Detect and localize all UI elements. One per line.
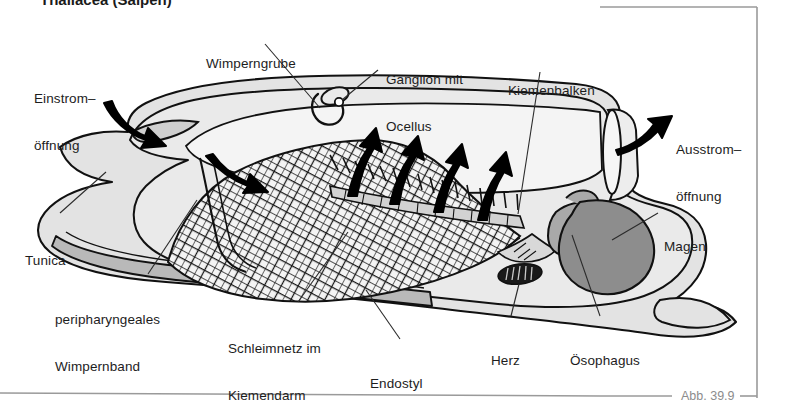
label-wimperngrube-line1: Wimperngrube <box>206 56 296 72</box>
label-schleimnetz-im-kiemendarm: Schleimnetz im Kiemendarm <box>228 310 321 413</box>
label-magen-line1: Magen <box>664 239 706 255</box>
label-wimperngrube: Wimperngrube <box>206 25 296 103</box>
label-oesophagus-line1: Ösophagus <box>570 353 640 369</box>
label-ganglion-mit-ocellus: Ganglion mit Ocellus <box>386 41 463 165</box>
label-einstromoeffnung-line2: öffnung <box>34 138 96 154</box>
label-peripharyngeales-wimpernband: peripharyngeales Wimpernband <box>55 281 160 405</box>
label-wimpernband-line1: peripharyngeales <box>55 312 160 328</box>
figure-container: Thaliacea (Salpen) <box>0 0 787 413</box>
label-herz: Herz <box>491 322 520 400</box>
label-einstromoeffnung-line1: Einstrom– <box>34 91 96 107</box>
label-tunica-line1: Tunica <box>25 253 66 269</box>
ocellus-icon <box>335 98 343 106</box>
label-ganglion-line2: Ocellus <box>386 119 463 135</box>
figure-caption: Abb. 39.9 <box>681 389 735 403</box>
label-endostyl-line1: Endostyl <box>370 376 423 392</box>
label-herz-line1: Herz <box>491 353 520 369</box>
label-ausstromoeffnung-line1: Ausstrom– <box>676 142 741 158</box>
label-ganglion-line1: Ganglion mit <box>386 72 463 88</box>
tunica-posterior-lobe <box>654 298 730 328</box>
label-endostyl: Endostyl <box>370 345 423 413</box>
label-einstromoeffnung: Einstrom– öffnung <box>34 60 96 184</box>
label-wimpernband-line2: Wimpernband <box>55 359 160 375</box>
label-magen: Magen <box>664 208 706 286</box>
label-kiemenbalken-line1: Kiemenbalken <box>508 83 595 99</box>
label-kiemenbalken: Kiemenbalken <box>508 52 595 130</box>
label-ausstromoeffnung-line2: öffnung <box>676 189 741 205</box>
label-oesophagus: Ösophagus <box>570 322 640 400</box>
label-schleimnetz-line2: Kiemendarm <box>228 388 321 404</box>
label-schleimnetz-line1: Schleimnetz im <box>228 341 321 357</box>
